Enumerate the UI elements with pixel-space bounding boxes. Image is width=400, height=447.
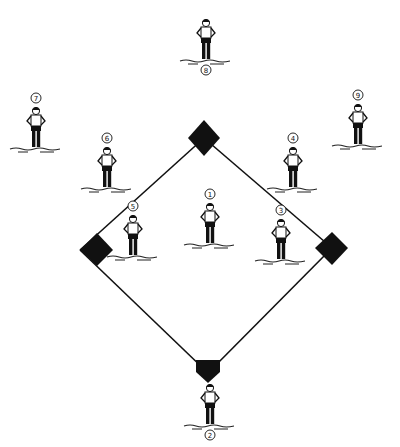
ground-shadow [81, 188, 131, 192]
cap-icon [289, 147, 297, 150]
player-number: 7 [34, 95, 38, 103]
shirt [205, 211, 215, 222]
player-number: 2 [208, 432, 212, 440]
ground-shadow [184, 244, 234, 248]
shirt [201, 27, 211, 38]
shirt [353, 112, 363, 123]
cap-icon [129, 215, 137, 218]
player-number: 8 [204, 67, 208, 75]
shirt [276, 227, 286, 238]
cap-icon [206, 384, 214, 387]
leg [202, 41, 205, 59]
third-base [80, 233, 113, 266]
ground-shadow [180, 60, 230, 64]
leg [32, 129, 35, 147]
player-shortstop: 6 [81, 133, 131, 192]
leg [207, 41, 210, 59]
ground-shadow [267, 188, 317, 192]
player-number: 1 [208, 191, 212, 199]
cap-icon [277, 219, 285, 222]
player-number-badge: 1 [205, 189, 215, 199]
baseline-second-third [80, 138, 204, 250]
player-pitcher: 1 [184, 189, 234, 248]
players: 123456789 [10, 19, 382, 440]
shirt [205, 392, 215, 403]
player-number-badge: 7 [31, 93, 41, 103]
player-number-badge: 6 [102, 133, 112, 143]
ground-shadow [107, 256, 157, 260]
ground-shadow [332, 145, 382, 149]
ground-shadow [10, 148, 60, 152]
player-number: 4 [291, 135, 296, 143]
player-left-fielder: 7 [10, 93, 60, 152]
cap-icon [32, 107, 40, 110]
leg [37, 129, 40, 147]
leg [277, 241, 280, 259]
player-right-fielder: 9 [332, 90, 382, 149]
baseline-third-home [80, 250, 208, 373]
player-center-fielder: 8 [180, 19, 230, 75]
leg [108, 169, 111, 187]
cap-icon [103, 147, 111, 150]
home-plate [196, 360, 220, 383]
leg [282, 241, 285, 259]
player-number: 5 [131, 203, 135, 211]
player-number-badge: 3 [276, 205, 286, 215]
leg [211, 406, 214, 424]
player-catcher: 2 [184, 384, 234, 440]
leg [206, 406, 209, 424]
ground-shadow [184, 425, 234, 429]
player-number-badge: 5 [128, 201, 138, 211]
cap-icon [202, 19, 210, 22]
player-second-baseman: 4 [267, 133, 317, 192]
baseline-first-second [204, 138, 332, 248]
player-first-baseman: 3 [255, 205, 305, 264]
baseball-field-diagram: 123456789 [0, 0, 400, 447]
leg [206, 225, 209, 243]
leg [289, 169, 292, 187]
leg [359, 126, 362, 144]
leg [103, 169, 106, 187]
player-third-baseman: 5 [107, 201, 157, 260]
player-number: 6 [105, 135, 110, 143]
player-number: 3 [279, 207, 283, 215]
cap-icon [354, 104, 362, 107]
leg [134, 237, 137, 255]
shirt [31, 115, 41, 126]
baseline-home-first [208, 248, 332, 373]
cap-icon [206, 203, 214, 206]
shirt [288, 155, 298, 166]
leg [211, 225, 214, 243]
player-number-badge: 4 [288, 133, 298, 143]
shirt [102, 155, 112, 166]
player-number-badge: 9 [353, 90, 363, 100]
leg [354, 126, 357, 144]
player-number: 9 [356, 92, 360, 100]
player-number-badge: 8 [201, 65, 211, 75]
second-base [188, 120, 220, 156]
shirt [128, 223, 138, 234]
leg [294, 169, 297, 187]
player-number-badge: 2 [205, 430, 215, 440]
leg [129, 237, 132, 255]
ground-shadow [255, 260, 305, 264]
